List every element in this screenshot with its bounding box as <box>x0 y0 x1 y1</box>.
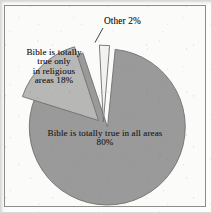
other-leader-line <box>95 28 103 43</box>
slice-label-religious-areas: Bible is totally true only in religious … <box>15 48 93 85</box>
slice-label-other-text: Other 2% <box>104 16 141 26</box>
slice-label-religious-line-4: areas 18% <box>15 76 93 85</box>
slice-label-other: Other 2% <box>104 17 190 27</box>
pie-chart-figure: Other 2% Bible is totally true only in r… <box>0 0 212 213</box>
slice-label-all-areas: Bible is totally true in all areas 80% <box>30 129 180 148</box>
pie-chart-canvas <box>0 0 212 213</box>
slice-label-all-areas-line-2: 80% <box>30 138 180 147</box>
